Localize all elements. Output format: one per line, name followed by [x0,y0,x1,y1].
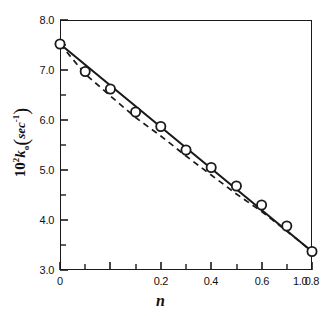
y-title-symbol: k [12,150,28,158]
y-tick-label-3: 3.0 [18,265,54,276]
x-tick-label-02: 0.2 [141,276,181,287]
x-tick-label-04: 0.4 [191,276,231,287]
data-point [257,200,266,209]
data-point [55,39,64,48]
y-tick-text: 8.0 [20,15,54,26]
data-point [131,107,140,116]
figure-chart: 3.0 4.0 5.0 6.0 7.0 8.0 0 0.2 0.4 0.6 0.… [0,0,332,316]
data-point [181,145,190,154]
y-title-paren-close: ) [9,108,33,115]
data-point [106,84,115,93]
x-tick-label-0: 0 [40,276,80,287]
y-tick-label-8: 8.0 [18,15,54,26]
x-axis-title: n [156,292,165,310]
y-title-exponent: 2 [11,158,21,163]
data-point [207,163,216,172]
data-point [81,67,90,76]
x-tick-label-06: 0.6 [242,276,282,287]
x-tick-label-10: 1.0 [293,276,332,287]
y-title-unit-exponent: -1 [11,115,21,123]
y-title-prefix: 10 [12,162,28,177]
y-tick-text: 3.0 [20,265,54,276]
x-minor-ticks [85,264,287,270]
y-minor-ticks [60,45,66,245]
y-title-unit: sec [13,122,28,139]
data-point [307,247,316,256]
y-title-paren-open: ( [9,139,33,146]
y-axis-title: 102ko(sec-1) [9,48,34,238]
data-point [282,221,291,230]
data-point [156,122,165,131]
y-title-subscript: o [21,146,31,151]
data-point [232,181,241,190]
